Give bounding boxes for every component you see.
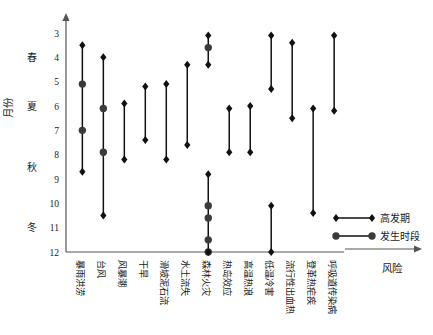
category-label-4: 滑坡泥石流 (159, 260, 170, 305)
y-tick-label-12: 12 (50, 248, 60, 258)
category-label-0: 暴雨洪涝 (75, 260, 86, 296)
series-start-marker-9-1 (268, 202, 274, 210)
legend-marker-end-0 (369, 214, 375, 222)
category-label-7: 热岛效应 (222, 260, 233, 296)
y-tick-label-8: 8 (54, 150, 59, 160)
x-axis-title: 风险 (382, 262, 403, 274)
series-peak-marker-0-0-0 (79, 80, 86, 87)
category-label-6: 森林火灾 (201, 260, 212, 296)
category-label-5: 水土流失 (180, 260, 191, 296)
series-start-marker-8-0 (247, 102, 253, 110)
series-start-marker-3-0 (142, 83, 148, 91)
season-label-夏: 夏 (27, 101, 37, 112)
series-end-marker-8-0 (247, 148, 253, 156)
series-end-marker-3-0 (142, 136, 148, 144)
category-label-12: 呼吸道传染病 (327, 260, 338, 314)
series-end-marker-11-0 (310, 209, 316, 217)
series-start-marker-12-0 (331, 31, 337, 39)
series-end-marker-2-0 (121, 156, 127, 164)
y-tick-label-11: 11 (50, 223, 59, 233)
series-start-marker-9-0 (268, 31, 274, 39)
y-tick-label-9: 9 (54, 175, 59, 185)
category-label-10: 流行性出血热 (285, 260, 296, 314)
y-axis-arrow-icon (62, 13, 69, 21)
y-tick-label-3: 3 (54, 29, 59, 39)
series-start-marker-6-0 (205, 31, 211, 39)
series-peak-marker-1-0-0 (100, 105, 107, 112)
category-label-8: 高温热浪 (243, 260, 254, 296)
series-end-marker-9-0 (268, 85, 274, 93)
series-end-marker-4-0 (163, 156, 169, 164)
series-end-marker-7-0 (226, 148, 232, 156)
series-peak-marker-1-0-1 (100, 149, 107, 156)
category-label-9: 低温冷害 (264, 260, 275, 296)
season-label-春: 春 (27, 52, 37, 63)
series-start-marker-2-0 (121, 100, 127, 108)
series-end-marker-6-0 (205, 61, 211, 69)
series-end-marker-12-0 (331, 107, 337, 115)
y-axis-title: 月份 (2, 97, 14, 118)
chart-canvas: 3456789101112春夏秋冬月份风险暴雨洪涝台风风暴潮干旱滑坡泥石流水土流… (0, 0, 433, 335)
series-start-marker-5-0 (184, 61, 190, 69)
y-tick-label-7: 7 (54, 126, 59, 136)
legend-marker-start-1 (332, 232, 339, 239)
season-label-秋: 秋 (27, 161, 37, 173)
risk-season-chart: 3456789101112春夏秋冬月份风险暴雨洪涝台风风暴潮干旱滑坡泥石流水土流… (0, 0, 433, 335)
category-label-3: 干旱 (138, 260, 148, 278)
y-tick-label-5: 5 (54, 77, 59, 87)
legend-marker-start-0 (333, 214, 339, 222)
legend-marker-end-1 (368, 232, 375, 239)
category-label-2: 风暴潮 (117, 260, 128, 287)
series-start-marker-7-0 (226, 104, 232, 112)
series-start-marker-4-0 (163, 80, 169, 88)
series-peak-marker-6-1-1 (205, 214, 212, 221)
series-start-marker-11-0 (310, 104, 316, 112)
series-end-marker-0-0 (79, 168, 85, 176)
series-start-marker-0-0 (79, 41, 85, 49)
season-label-冬: 冬 (27, 221, 37, 233)
series-peak-marker-6-1-0 (205, 202, 212, 209)
series-peak-marker-6-1-2 (205, 236, 212, 243)
category-label-1: 台风 (96, 260, 107, 278)
legend-label-1: 发生时段 (380, 230, 420, 242)
series-end-marker-9-1 (268, 248, 274, 256)
series-end-marker-5-0 (184, 141, 190, 149)
series-peak-marker-0-0-1 (79, 127, 86, 134)
series-end-marker-1-0 (100, 212, 106, 220)
series-start-marker-1-0 (100, 53, 106, 61)
risk-axis-arrow-icon (414, 245, 422, 252)
y-tick-label-6: 6 (54, 102, 59, 112)
series-peak-marker-6-0-0 (205, 44, 212, 51)
series-start-marker-10-0 (289, 39, 295, 47)
y-tick-label-10: 10 (50, 199, 60, 209)
series-start-marker-6-1 (205, 170, 211, 178)
series-end-marker-10-0 (289, 114, 295, 122)
category-label-11: 登革热疟疾 (306, 260, 317, 305)
y-tick-label-4: 4 (54, 53, 59, 63)
legend-label-0: 高发期 (380, 212, 410, 224)
